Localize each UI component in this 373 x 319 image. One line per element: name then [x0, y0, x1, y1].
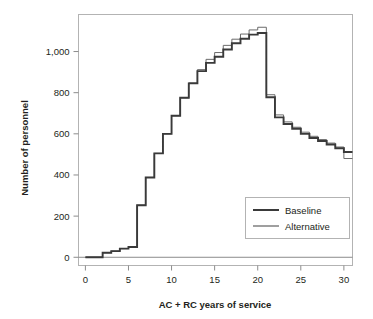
step-chart: 02004006008001,000 051015202530 AC + RC … [0, 0, 373, 319]
x-tick-label: 25 [296, 274, 307, 285]
y-tick-label: 1,000 [46, 46, 70, 57]
x-axis-title: AC + RC years of service [159, 299, 272, 310]
y-axis-title: Number of personnel [19, 100, 30, 196]
x-tick-label: 15 [209, 274, 220, 285]
y-tick-label: 400 [54, 169, 70, 180]
chart-legend[interactable]: Baseline Alternative [246, 198, 350, 239]
y-tick-label: 200 [54, 211, 70, 222]
legend-label-alternative: Alternative [285, 221, 330, 232]
y-tick-label: 600 [54, 128, 70, 139]
x-tick-label: 0 [83, 274, 88, 285]
legend-label-baseline: Baseline [285, 205, 321, 216]
chart-figure: 02004006008001,000 051015202530 AC + RC … [0, 0, 373, 319]
y-tick-label: 800 [54, 87, 70, 98]
x-tick-label: 5 [126, 274, 131, 285]
y-tick-label: 0 [64, 252, 69, 263]
x-tick-label: 30 [339, 274, 350, 285]
x-tick-label: 10 [166, 274, 177, 285]
x-tick-label: 20 [252, 274, 263, 285]
